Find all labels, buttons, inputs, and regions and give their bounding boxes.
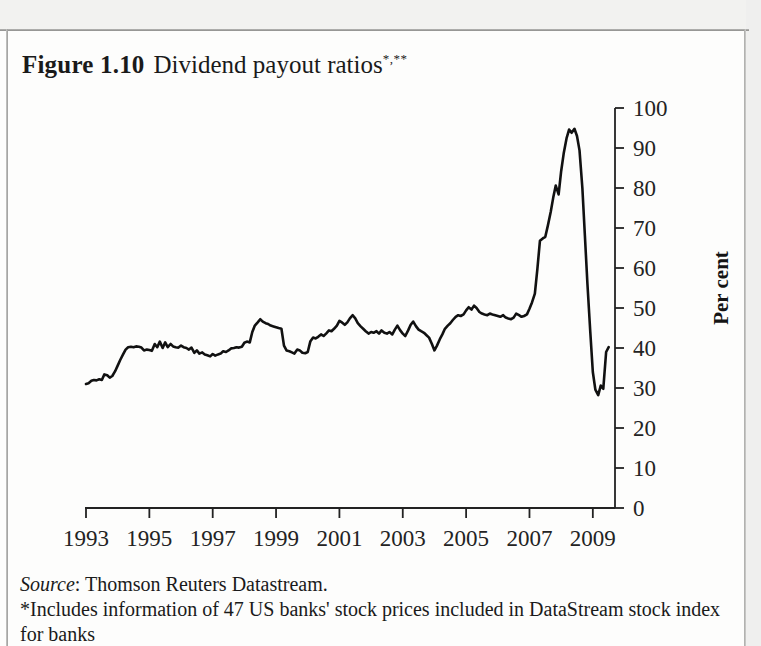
y-axis-tick-label: 70 (633, 216, 656, 241)
chart-area: 0102030405060708090100 19931995199719992… (0, 80, 761, 560)
x-axis-ticks (86, 508, 593, 518)
figure-title: Figure 1.10Dividend payout ratios*,** (22, 44, 407, 80)
source-label: Source (20, 573, 75, 595)
figure-caption: Dividend payout ratios (154, 51, 383, 78)
scan-top-band (0, 0, 761, 29)
y-axis-tick-label: 40 (633, 336, 656, 361)
y-axis-tick-label: 80 (633, 176, 656, 201)
x-axis-tick-labels: 199319951997199920012003200520072009 (63, 526, 616, 551)
figure-footnotes: Source: Thomson Reuters Datastream. *Inc… (20, 572, 735, 646)
x-axis-tick-label: 1993 (63, 526, 109, 551)
source-value: : Thomson Reuters Datastream. (75, 573, 328, 595)
x-axis-tick-label: 2003 (380, 526, 426, 551)
x-axis-tick-label: 2001 (316, 526, 362, 551)
x-axis: 199319951997199920012003200520072009 (63, 508, 616, 551)
y-axis-tick-label: 10 (633, 456, 656, 481)
page-top-rule (0, 29, 749, 31)
dividend-payout-line-chart: 0102030405060708090100 19931995199719992… (0, 80, 761, 560)
x-axis-tick-label: 1997 (190, 526, 236, 551)
y-axis-title: Per cent (709, 251, 733, 325)
y-axis-tick-labels: 0102030405060708090100 (633, 96, 668, 521)
x-axis-tick-label: 2005 (443, 526, 489, 551)
y-axis-tick-label: 20 (633, 416, 656, 441)
x-axis-tick-label: 1999 (253, 526, 299, 551)
figure-footnote-marks: *,** (383, 51, 408, 66)
x-axis-tick-label: 1995 (126, 526, 172, 551)
source-line: Source: Thomson Reuters Datastream. (20, 572, 735, 597)
x-axis-tick-label: 2007 (506, 526, 552, 551)
figure-page: Figure 1.10Dividend payout ratios*,** 01… (0, 0, 761, 646)
y-axis-tick-label: 100 (633, 96, 668, 121)
y-axis-tick-label: 50 (633, 296, 656, 321)
x-axis-tick-label: 2009 (570, 526, 616, 551)
y-axis-ticks (615, 108, 624, 508)
y-axis-tick-label: 90 (633, 136, 656, 161)
y-axis: 0102030405060708090100 (615, 96, 668, 521)
figure-number: Figure 1.10 (22, 51, 145, 78)
y-axis-tick-label: 60 (633, 256, 656, 281)
footnote-star: *Includes information of 47 US banks' st… (20, 597, 735, 646)
y-axis-tick-label: 0 (633, 496, 645, 521)
dividend-payout-series-line (86, 129, 609, 395)
y-axis-tick-label: 30 (633, 376, 656, 401)
